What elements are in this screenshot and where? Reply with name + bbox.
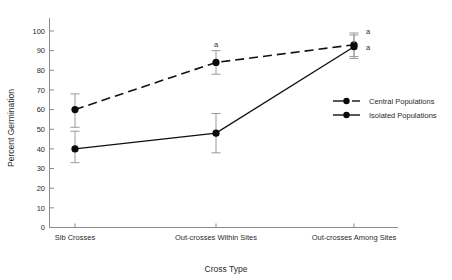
data-point	[71, 106, 78, 113]
axes-group	[50, 18, 399, 228]
y-tick-label-50: 50	[37, 125, 45, 134]
significance-annotation: a	[214, 40, 219, 49]
series-layer	[71, 33, 359, 163]
significance-annotation: a	[366, 43, 371, 52]
legend-item-central-populations: Central Populations	[333, 97, 435, 106]
annotation-layer: aaa	[214, 27, 371, 52]
y-axis-ticks	[50, 31, 55, 228]
x-category-label-2: Out-crosses Among Sites	[312, 233, 397, 242]
x-category-label-1: Out-crosses Within Sites	[175, 233, 257, 242]
y-tick-label-100: 100	[32, 27, 45, 36]
chart-legend: Central PopulationsIsolated Populations	[333, 97, 437, 120]
chart-figure: 0102030405060708090100 Sib CrossesOut-cr…	[0, 0, 452, 280]
data-point	[212, 59, 219, 66]
series-isolated-populations	[71, 35, 359, 163]
legend-marker	[343, 98, 349, 104]
y-axis-title: Percent Germination	[6, 89, 16, 167]
y-tick-label-90: 90	[37, 46, 45, 55]
y-tick-label-0: 0	[41, 223, 45, 232]
x-axis-category-labels: Sib CrossesOut-crosses Within SitesOut-c…	[55, 233, 397, 242]
x-axis-ticks	[75, 224, 354, 228]
percent-germination-line-chart: 0102030405060708090100 Sib CrossesOut-cr…	[0, 0, 452, 280]
y-tick-label-60: 60	[37, 105, 45, 114]
x-axis-title: Cross Type	[205, 264, 248, 274]
legend-label: Central Populations	[369, 97, 435, 106]
data-point	[71, 145, 78, 152]
y-tick-label-40: 40	[37, 145, 45, 154]
y-tick-label-80: 80	[37, 66, 45, 75]
y-tick-label-30: 30	[37, 164, 45, 173]
legend-label: Isolated Populations	[369, 111, 437, 120]
y-tick-label-70: 70	[37, 86, 45, 95]
data-point	[212, 130, 219, 137]
legend-marker	[343, 112, 349, 118]
y-tick-label-20: 20	[37, 184, 45, 193]
series-line	[75, 45, 354, 110]
y-axis-tick-labels: 0102030405060708090100	[32, 27, 45, 233]
significance-annotation: a	[366, 27, 371, 36]
legend-item-isolated-populations: Isolated Populations	[333, 111, 437, 120]
x-category-label-0: Sib Crosses	[55, 233, 96, 242]
data-point	[350, 43, 357, 50]
y-tick-label-10: 10	[37, 204, 45, 213]
